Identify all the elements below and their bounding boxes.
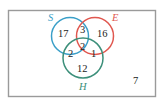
set-h-label: H: [78, 81, 88, 92]
region-s-and-e: 3: [80, 24, 85, 35]
set-e-label: E: [111, 12, 119, 23]
region-outside: 7: [133, 75, 138, 86]
venn-diagram: S E H 17 3 16 2 2 1 12 7: [0, 0, 164, 102]
region-e-and-h: 1: [91, 48, 96, 59]
region-s-e-h: 2: [80, 41, 85, 52]
region-s-only: 17: [58, 28, 69, 39]
region-h-only: 12: [77, 63, 88, 74]
region-s-and-h: 2: [68, 48, 73, 59]
set-s-label: S: [48, 12, 54, 23]
region-e-only: 16: [97, 28, 108, 39]
